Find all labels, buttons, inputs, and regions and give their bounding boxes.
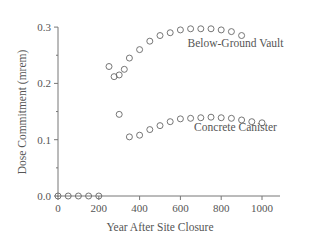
data-point [188,26,194,32]
data-point [167,30,173,36]
y-tick-label: 0.1 [37,134,51,146]
x-tick-label: 400 [131,202,148,214]
data-point [177,27,183,33]
data-point [198,26,204,32]
data-point [137,132,143,138]
data-point [137,47,143,53]
series-below-ground-vault [106,26,245,80]
data-point [167,119,173,125]
data-point [126,55,132,61]
data-point [147,127,153,133]
data-point [147,38,153,44]
axis-ticks: 0.00.10.20.302004006008001000 [37,21,273,214]
series-label: Below-Ground Vault [188,37,285,49]
x-tick-label: 200 [91,202,108,214]
data-point [188,115,194,121]
data-point [198,115,204,121]
y-axis-title: Dose Commitment (mrem) [16,50,29,175]
y-tick-label: 0.2 [37,77,51,89]
x-tick-label: 1000 [251,202,274,214]
data-point [208,26,214,32]
series-label: Concrete Canister [194,121,277,133]
data-point [157,33,163,39]
series-labels: Below-Ground VaultConcrete Canister [188,37,285,133]
data-point [208,114,214,120]
data-point [106,64,112,70]
data-point [121,66,127,72]
x-tick-label: 800 [213,202,230,214]
x-tick-label: 0 [55,202,61,214]
data-point [157,123,163,129]
data-points [55,26,265,199]
data-point [116,111,122,117]
data-point [218,27,224,33]
data-point [218,115,224,121]
x-tick-label: 600 [172,202,189,214]
axes [57,27,280,197]
y-tick-label: 0.3 [37,21,51,33]
x-axis-title: Year After Site Closure [106,221,213,233]
data-point [126,134,132,140]
data-point [177,116,183,122]
dose-commitment-chart: 0.00.10.20.302004006008001000 Below-Grou… [0,0,330,241]
y-tick-label: 0.0 [37,190,51,202]
data-point [228,29,234,35]
